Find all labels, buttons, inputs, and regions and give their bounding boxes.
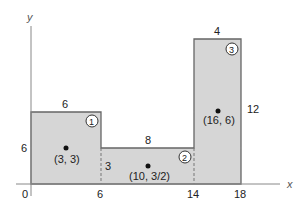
x-tick-18: 18 — [234, 188, 246, 200]
region-3-number: 3 — [229, 45, 234, 55]
region-1-number: 1 — [89, 117, 94, 127]
x-axis-label: x — [286, 178, 293, 190]
origin-label: 0 — [22, 188, 28, 200]
region-2-width: 8 — [145, 134, 151, 146]
y-tick-6: 6 — [21, 142, 27, 154]
x-tick-6: 6 — [97, 188, 103, 200]
region-3-height: 12 — [247, 103, 259, 115]
x-tick-14: 14 — [187, 188, 199, 200]
region-2-height: 3 — [105, 160, 111, 172]
region-1-centroid-dot — [64, 146, 69, 151]
region-3-centroid-label: (16, 6) — [203, 114, 235, 126]
composite-area-diagram: x y 0 6 14 18 6 6 1 (3, 3) 8 3 2 (10, 3/… — [0, 0, 304, 208]
region-3-width: 4 — [214, 25, 220, 37]
region-2-centroid-label: (10, 3/2) — [129, 170, 170, 182]
y-axis-label: y — [26, 11, 34, 23]
region-1-width: 6 — [62, 98, 68, 110]
region-2-number: 2 — [182, 153, 187, 163]
region-2-centroid-dot — [146, 164, 151, 169]
region-1-centroid-label: (3, 3) — [54, 153, 80, 165]
region-3-centroid-dot — [216, 109, 221, 114]
